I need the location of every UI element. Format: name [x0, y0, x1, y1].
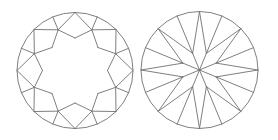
background — [0, 0, 278, 140]
diamond-facet-diagram — [0, 0, 278, 140]
